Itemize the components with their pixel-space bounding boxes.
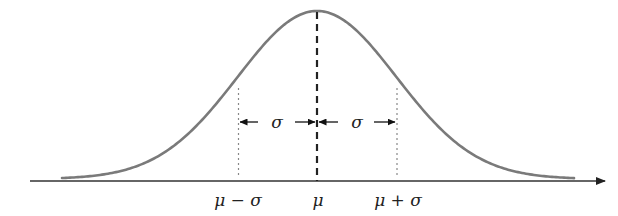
label-mu-minus-sigma: μ − σ: [214, 190, 262, 210]
label-mu: μ: [312, 190, 323, 210]
right-sigma-label: σ: [351, 112, 363, 132]
normal-distribution-diagram: σ σ μ − σ μ μ + σ: [0, 0, 618, 216]
left-sigma-label: σ: [271, 112, 283, 132]
label-mu-plus-sigma: μ + σ: [374, 190, 422, 210]
